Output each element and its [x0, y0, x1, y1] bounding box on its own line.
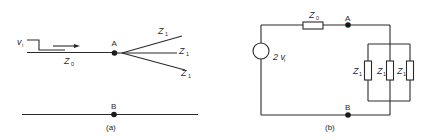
branch-1-label: Z	[157, 26, 164, 36]
resistor-z0-label: Z	[308, 10, 315, 20]
branch-line-1	[122, 36, 182, 53]
resistor-z0-sub: 0	[316, 15, 319, 21]
load-1-label: Z	[352, 66, 359, 76]
step-pulse-icon	[27, 40, 65, 50]
diagram-canvas: v i Z 0 A Z 1 Z 1 Z 1 B (a)	[0, 0, 429, 140]
resistor-z1-middle-icon	[387, 61, 394, 80]
node-b	[345, 112, 351, 118]
node-b	[111, 112, 117, 118]
node-b-label: B	[111, 102, 116, 111]
load-1-sub: 1	[359, 71, 362, 77]
branch-3-sub: 1	[188, 73, 191, 79]
resistor-z0-icon	[303, 22, 323, 29]
branch-2-label: Z	[178, 46, 185, 56]
node-a-label: A	[112, 39, 118, 48]
panel-a-caption: (a)	[106, 123, 116, 132]
resistor-z1-left-icon	[365, 61, 372, 80]
line-z0-sub: 0	[71, 61, 74, 67]
resistor-z1-right-icon	[407, 61, 414, 80]
panel-b: 2 v i Z 0 A Z 1 Z 1 Z 1 B (b)	[253, 10, 414, 132]
load-2-sub: 1	[383, 71, 386, 77]
line-z0-label: Z	[63, 56, 70, 66]
load-3-label: Z	[396, 66, 403, 76]
node-a-label: A	[345, 14, 351, 23]
node-a	[345, 22, 351, 28]
panel-a: v i Z 0 A Z 1 Z 1 Z 1 B (a)	[17, 26, 198, 132]
branch-1-sub: 1	[165, 31, 168, 37]
branch-2-sub: 1	[186, 51, 189, 57]
arrow-right-icon	[53, 44, 80, 48]
branch-3-label: Z	[180, 68, 187, 78]
load-3-sub: 1	[403, 71, 406, 77]
source-sub: i	[284, 57, 285, 63]
load-2-label: Z	[376, 66, 383, 76]
node-b-label: B	[345, 103, 350, 112]
voltage-source-icon	[253, 43, 269, 59]
source-voltage-sub: i	[22, 42, 23, 48]
panel-b-caption: (b)	[325, 123, 335, 132]
branch-line-3	[122, 53, 185, 70]
